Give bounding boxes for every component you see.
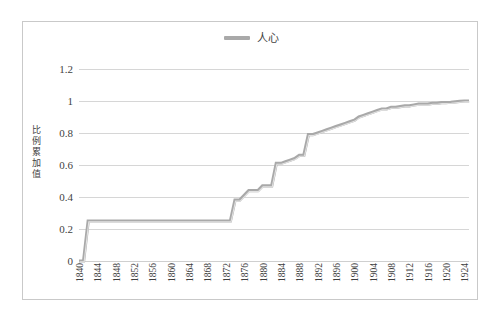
x-axis-tick-label: 1880 xyxy=(259,263,269,282)
chart-root: 人心 比 例 累 加 值 00.20.40.60.811.2 184018441… xyxy=(0,0,498,318)
gridline xyxy=(79,261,469,262)
y-axis-tick-label: 0 xyxy=(68,255,74,267)
plot-area: 00.20.40.60.811.2 xyxy=(79,69,469,261)
x-axis-tick-label: 1876 xyxy=(240,263,250,282)
x-axis-tick-label: 1912 xyxy=(405,263,415,282)
y-axis-tick-label: 0.2 xyxy=(59,223,73,235)
legend-line-swatch-icon xyxy=(224,36,250,40)
x-axis-tick-label: 1924 xyxy=(460,263,470,282)
x-axis-tick-label: 1860 xyxy=(167,263,177,282)
x-axis-tick-label: 1896 xyxy=(332,263,342,282)
x-axis-tick-label: 1840 xyxy=(75,263,85,282)
y-axis-title: 比 例 累 加 值 xyxy=(29,125,43,180)
x-axis-tick-label: 1904 xyxy=(369,263,379,282)
y-axis-title-char: 累 xyxy=(29,147,43,158)
y-axis-title-char: 加 xyxy=(29,158,43,169)
chart-figure-frame: 人心 比 例 累 加 值 00.20.40.60.811.2 184018441… xyxy=(22,21,478,300)
y-axis-tick-label: 1.2 xyxy=(59,63,73,75)
x-axis-tick-labels: 1840184418481852185618601864186818721876… xyxy=(79,263,469,313)
x-axis-tick-label: 1892 xyxy=(314,263,324,282)
y-axis-tick-label: 0.8 xyxy=(59,127,73,139)
chart-legend: 人心 xyxy=(23,29,479,47)
y-axis-title-char: 值 xyxy=(29,169,43,180)
x-axis-tick-label: 1908 xyxy=(387,263,397,282)
x-axis-tick-label: 1872 xyxy=(222,263,232,282)
y-axis-title-char: 例 xyxy=(29,136,43,147)
x-axis-tick-label: 1844 xyxy=(93,263,103,282)
y-axis-title-char: 比 xyxy=(29,125,43,136)
y-axis-tick-label: 0.6 xyxy=(59,159,73,171)
x-axis-tick-label: 1900 xyxy=(350,263,360,282)
x-axis-tick-label: 1856 xyxy=(148,263,158,282)
y-axis-tick-label: 0.4 xyxy=(59,191,73,203)
x-axis-tick-label: 1864 xyxy=(185,263,195,282)
x-axis-tick-label: 1920 xyxy=(442,263,452,282)
x-axis-tick-label: 1884 xyxy=(277,263,287,282)
y-axis-tick-label: 1 xyxy=(68,95,74,107)
x-axis-tick-label: 1852 xyxy=(130,263,140,282)
series-line-highlight xyxy=(80,102,470,262)
legend-label: 人心 xyxy=(257,33,279,44)
x-axis-tick-label: 1848 xyxy=(112,263,122,282)
x-axis-tick-label: 1868 xyxy=(203,263,213,282)
series-layer xyxy=(79,69,469,261)
x-axis-tick-label: 1888 xyxy=(295,263,305,282)
x-axis-tick-label: 1916 xyxy=(424,263,434,282)
